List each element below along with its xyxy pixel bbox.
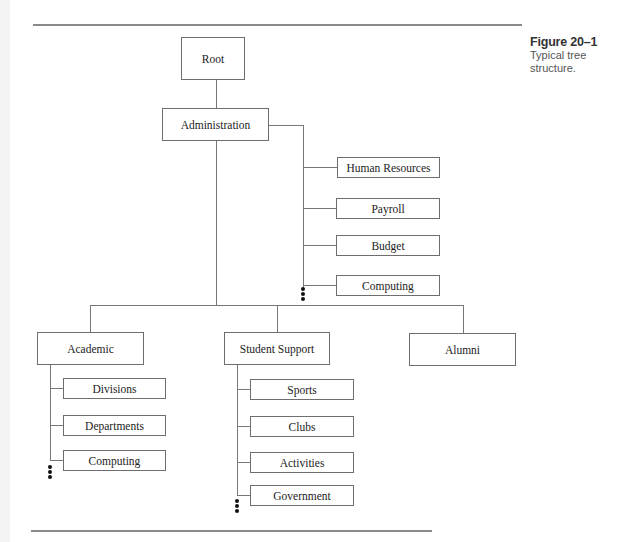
node-student-support: Student Support: [224, 332, 330, 365]
node-administration: Administration: [162, 108, 269, 141]
connector-sports: [237, 389, 250, 390]
connector-divisions: [50, 388, 63, 389]
node-academic: Academic: [37, 332, 144, 365]
node-label: Root: [202, 53, 224, 65]
node-label: Divisions: [92, 383, 136, 395]
more-indicator-academic: [48, 465, 52, 480]
node-root: Root: [181, 37, 245, 80]
page-gutter: [0, 0, 10, 542]
connector-student-support: [277, 305, 278, 332]
connector-government: [237, 495, 250, 496]
node-alumni: Alumni: [409, 333, 516, 366]
node-academic-computing: Computing: [63, 450, 166, 471]
node-departments: Departments: [63, 415, 166, 436]
connector-admin-computing: [303, 285, 336, 286]
connector-clubs: [237, 426, 250, 427]
node-label: Budget: [371, 240, 404, 252]
node-budget: Budget: [336, 235, 440, 256]
node-clubs: Clubs: [250, 416, 354, 437]
node-label: Payroll: [371, 203, 404, 215]
node-divisions: Divisions: [63, 378, 166, 399]
connector-root-admin: [216, 79, 217, 108]
node-label: Computing: [89, 455, 141, 467]
node-admin-computing: Computing: [336, 275, 440, 296]
node-label: Administration: [181, 119, 251, 131]
more-indicator-admin: [301, 287, 305, 302]
connector-payroll: [303, 208, 336, 209]
node-label: Student Support: [240, 343, 314, 355]
node-human-resources: Human Resources: [337, 157, 440, 178]
connector-academic-trunk: [50, 364, 51, 461]
node-label: Alumni: [445, 344, 480, 356]
node-label: Academic: [67, 343, 114, 355]
figure-label: Figure 20–1: [530, 35, 600, 49]
connector-activities: [237, 462, 250, 463]
bottom-rule: [31, 530, 432, 532]
node-label: Sports: [287, 384, 316, 396]
node-label: Computing: [362, 280, 414, 292]
connector-hr: [303, 167, 337, 168]
node-label: Human Resources: [347, 162, 431, 174]
node-sports: Sports: [250, 379, 354, 400]
node-payroll: Payroll: [336, 198, 440, 219]
more-indicator-student-support: [235, 499, 239, 514]
connector-academic-computing: [50, 460, 63, 461]
node-government: Government: [250, 485, 354, 506]
node-label: Activities: [280, 457, 325, 469]
connector-admin-right: [268, 125, 304, 126]
connector-departments: [50, 425, 63, 426]
node-label: Clubs: [289, 421, 316, 433]
connector-academic: [90, 305, 91, 332]
top-rule: [33, 24, 522, 26]
node-label: Departments: [85, 420, 144, 432]
connector-budget: [303, 245, 336, 246]
node-activities: Activities: [250, 452, 354, 473]
connector-student-support-trunk: [237, 364, 238, 496]
figure-description: Typical tree structure.: [530, 49, 600, 75]
figure-caption: Figure 20–1 Typical tree structure.: [530, 35, 600, 75]
connector-admin-down: [216, 140, 217, 305]
node-label: Government: [273, 490, 330, 502]
connector-alumni: [463, 305, 464, 333]
connector-admin-right-trunk: [303, 125, 304, 287]
